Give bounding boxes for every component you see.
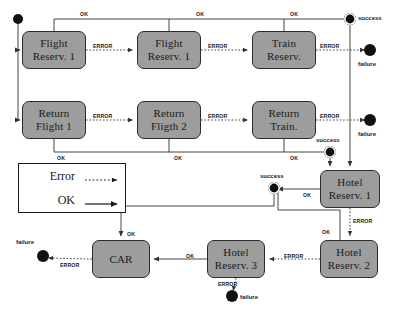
final-state-node-success-lower [268, 182, 280, 194]
state-hotel-reserv-1[interactable]: Hotel Reserv. 1 [320, 170, 380, 208]
state-label-line: Return [38, 107, 69, 120]
edge-label: ERROR [60, 262, 79, 268]
edge-label: OK [57, 155, 65, 161]
edge-label: OK [303, 192, 311, 198]
edge-label: ERROR [208, 113, 227, 119]
node-label-success-mid: success [316, 137, 340, 143]
state-label-line: Fligth 2 [151, 120, 187, 133]
edge-error-car-to-failure [48, 258, 92, 259]
legend: Error OK [18, 163, 126, 213]
state-flight-reserv-2[interactable]: Flight Reserv. 1 [137, 31, 201, 69]
state-return-flight-1[interactable]: Return Flight 1 [22, 101, 86, 139]
legend-row-error: Error [19, 164, 125, 188]
edge-label: OK [290, 155, 298, 161]
state-label-line: Return [268, 107, 299, 120]
edge-label: ERROR [93, 43, 112, 49]
state-label-line: Train. [270, 120, 297, 133]
state-hotel-reserv-3[interactable]: Hotel Reserv. 3 [207, 240, 265, 278]
state-label-line: Hotel [223, 246, 248, 259]
state-label-line: Return [153, 107, 184, 120]
edge-label: OK [80, 11, 88, 17]
edge-label: ERROR [93, 113, 112, 119]
node-label-success-top: success [358, 15, 382, 21]
state-car[interactable]: CAR [92, 240, 150, 278]
state-return-flight-2[interactable]: Return Fligth 2 [137, 101, 201, 139]
edge-label: OK [186, 253, 194, 259]
node-label-success-lower: success [260, 173, 284, 179]
state-label-line: Hotel [336, 246, 361, 259]
edge-label: ERROR [320, 43, 339, 49]
state-diagram-canvas: Flight Reserv. 1 Flight Reserv. 1 Train … [0, 0, 396, 315]
edge-label: ERROR [218, 281, 237, 287]
edge-label: OK [174, 155, 182, 161]
edge-label: ERROR [208, 43, 227, 49]
state-return-train[interactable]: Return Train. [252, 101, 316, 139]
state-label-line: Reserv. 1 [148, 50, 191, 63]
state-label-line: Reserv. [267, 50, 301, 63]
final-state-node-success-top [344, 13, 356, 25]
node-label-failure-mid: failure [358, 131, 376, 137]
node-label-failure-left: failure [16, 239, 34, 245]
edge-label: OK [127, 231, 135, 237]
node-label-failure-top: failure [358, 61, 376, 67]
final-state-node-failure-top [364, 44, 376, 56]
state-train-reserv[interactable]: Train Reserv. [252, 31, 316, 69]
node-label-failure-bottom: failure [240, 294, 258, 300]
state-label-line: Reserv. 1 [329, 189, 372, 202]
state-label-line: Flight 1 [36, 120, 72, 133]
final-state-node-failure-left [37, 250, 49, 262]
state-label-line: Hotel [337, 176, 362, 189]
initial-state-node [13, 14, 23, 24]
state-hotel-reserv-2[interactable]: Hotel Reserv. 2 [320, 240, 378, 278]
state-label-line: Train [272, 37, 296, 50]
state-flight-reserv-1[interactable]: Flight Reserv. 1 [22, 31, 86, 69]
legend-swatch-error-dotted-arrow [83, 171, 125, 181]
legend-label-error: Error [31, 169, 75, 184]
edge-label: ERROR [320, 113, 339, 119]
edge-label: OK [322, 229, 330, 235]
state-label-line: Reserv. 3 [215, 259, 258, 272]
state-label-line: Reserv. 1 [33, 50, 76, 63]
state-label-line: Flight [40, 37, 68, 50]
edge-label: OK [290, 11, 298, 17]
state-label-line: Reserv. 2 [328, 259, 371, 272]
edge-ok-flight1-top [54, 19, 346, 31]
edge-label: ERROR [353, 218, 372, 224]
edge-successlower-to-car [121, 192, 274, 236]
edge-label: OK [196, 11, 204, 17]
state-label-line: Flight [155, 37, 183, 50]
final-state-node-failure-bottom [226, 290, 238, 302]
legend-row-ok: OK [19, 188, 125, 212]
edge-ok-returnflight1-bottom [54, 139, 326, 152]
edge-label: ERROR [284, 253, 303, 259]
legend-label-ok: OK [31, 193, 75, 208]
final-state-node-failure-mid [364, 114, 376, 126]
final-state-node-success-mid [324, 146, 336, 158]
legend-swatch-ok-solid-arrow [83, 195, 125, 205]
state-label-line: CAR [109, 253, 132, 266]
